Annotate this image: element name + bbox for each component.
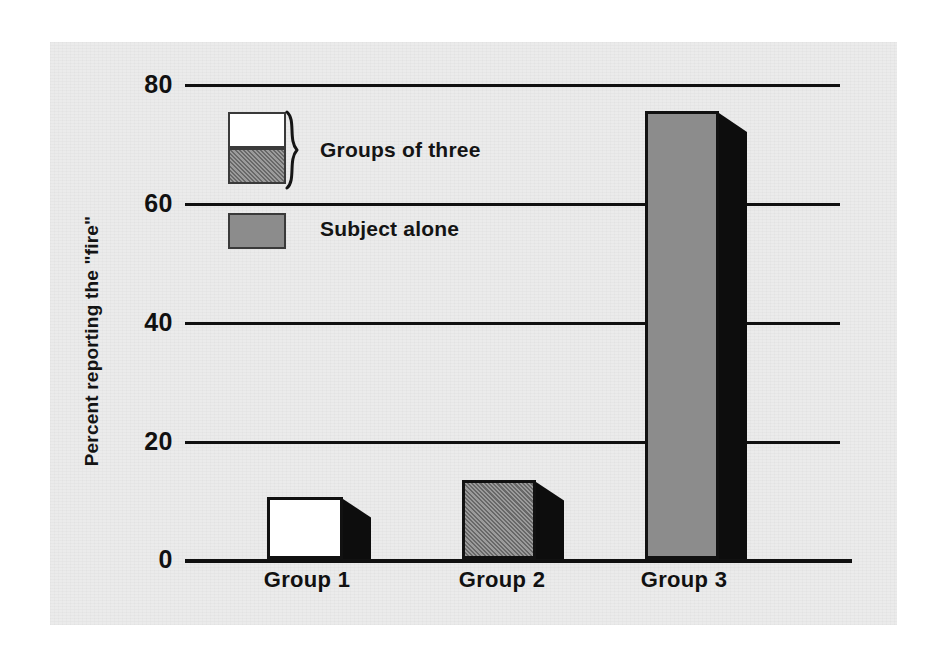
y-axis-label: Percent reporting the "fire" [81,186,103,496]
legend-label-subject-alone: Subject alone [320,217,459,241]
bar-group-2-side-face [533,480,564,559]
xtick-label-group-1: Group 1 [212,567,402,593]
legend-brace-icon [284,110,310,190]
plot-area: 80 60 40 20 0 Percent reporting the "fir… [0,0,938,661]
ytick-label-60: 60 [113,189,173,218]
figure-root: 80 60 40 20 0 Percent reporting the "fir… [0,0,938,661]
bar-group-2 [462,480,536,559]
legend: Groups of three Subject alone [228,112,588,272]
legend-swatch-groups-of-three-white [228,112,286,148]
bar-group-1 [267,497,343,559]
xtick-label-group-2: Group 2 [407,567,597,593]
legend-label-groups-of-three: Groups of three [320,138,481,162]
legend-swatch-groups-of-three-gray [228,148,286,184]
xtick-label-group-3: Group 3 [589,567,779,593]
ytick-label-40: 40 [113,308,173,337]
bar-group-2-front-face [462,480,536,559]
ytick-label-80: 80 [113,70,173,99]
bar-group-3-side-face [716,111,747,559]
bar-group-3 [645,111,719,559]
ytick-label-0: 0 [113,545,173,574]
bar-group-3-front-face [645,111,719,559]
bar-group-1-side-face [340,497,371,559]
bar-group-1-front-face [267,497,343,559]
gridline-80 [185,84,840,87]
legend-swatch-subject-alone [228,213,286,249]
ytick-label-20: 20 [113,427,173,456]
axis-baseline-0 [185,559,852,563]
